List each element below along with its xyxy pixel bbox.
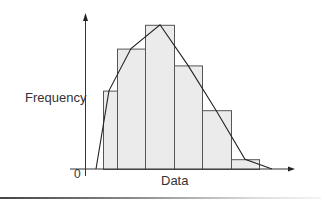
bottom-divider: [0, 197, 321, 199]
y-axis-arrow-icon: [83, 13, 88, 21]
x-axis-arrow-icon: [288, 167, 295, 172]
histogram-bars: [104, 25, 260, 169]
histogram-bar: [232, 160, 260, 170]
origin-label: 0: [74, 167, 81, 181]
histogram-bar: [104, 91, 118, 169]
histogram-bar: [146, 25, 175, 169]
y-axis-label: Frequency: [25, 90, 86, 105]
histogram-bar: [203, 111, 232, 170]
x-axis-label: Data: [161, 173, 188, 188]
